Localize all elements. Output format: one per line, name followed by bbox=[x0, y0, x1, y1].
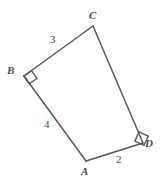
vertex-label-b: B bbox=[7, 65, 14, 76]
geometry-figure: A B C D 4 3 2 bbox=[0, 0, 164, 188]
vertex-label-a: A bbox=[81, 166, 88, 177]
side-length-bc: 3 bbox=[50, 34, 56, 45]
side-length-ab: 4 bbox=[44, 119, 50, 130]
side-length-ad: 2 bbox=[116, 154, 122, 165]
edge-bc bbox=[24, 26, 93, 76]
edge-ab bbox=[24, 76, 86, 161]
vertex-label-d: D bbox=[145, 138, 153, 149]
figure-canvas bbox=[0, 0, 164, 188]
edge-da bbox=[86, 143, 143, 161]
vertex-label-c: C bbox=[89, 10, 96, 21]
edge-cd bbox=[93, 26, 143, 143]
